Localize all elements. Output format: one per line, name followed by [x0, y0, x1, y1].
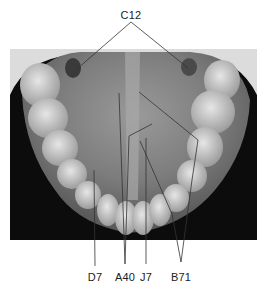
- label-b71: B71: [171, 271, 191, 283]
- xray-content: [10, 49, 257, 240]
- label-d7: D7: [88, 271, 102, 283]
- label-j7: J7: [140, 271, 152, 283]
- label-a40: A40: [115, 271, 135, 283]
- xray-image: [0, 0, 263, 292]
- label-c12: C12: [121, 9, 142, 21]
- radiograph-figure: C12 D7 A40 J7 B71: [0, 0, 263, 292]
